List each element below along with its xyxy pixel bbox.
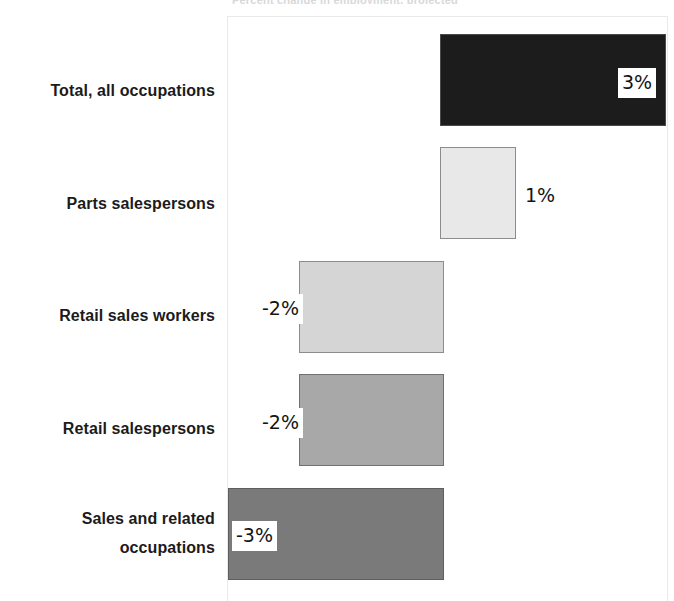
bar-chart: Percent change in employment, projected … bbox=[0, 0, 674, 601]
value-label-retail-sales-workers: -2% bbox=[258, 294, 303, 324]
bars-layer: 3% 1% -2% -2% -3% bbox=[0, 0, 674, 601]
bar-retail-salespersons[interactable] bbox=[299, 374, 444, 466]
value-label-total-all-occupations: 3% bbox=[618, 68, 656, 98]
value-label-retail-salespersons: -2% bbox=[258, 408, 303, 438]
bar-parts-salespersons[interactable] bbox=[440, 147, 516, 239]
value-label-parts-salespersons: 1% bbox=[521, 181, 559, 211]
value-label-sales-and-related-occupations: -3% bbox=[232, 521, 277, 551]
bar-retail-sales-workers[interactable] bbox=[299, 261, 444, 353]
